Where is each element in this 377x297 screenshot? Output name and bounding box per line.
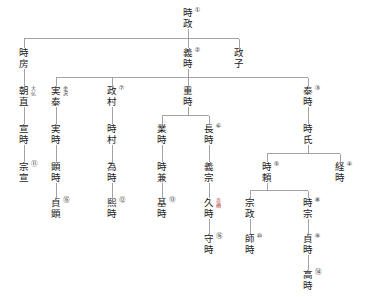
person-name-char: 政 (183, 19, 193, 30)
person-name-char: 時 (107, 173, 117, 184)
person-name-char: 子 (234, 59, 244, 70)
person-node-nagatoki: 長時⑥ (204, 124, 215, 146)
person-name-char: 宣 (19, 173, 29, 184)
branch-family-label: 赤橋 (216, 198, 221, 208)
succession-number: ③ (315, 85, 321, 92)
person-node-sanetoki: 実時 (51, 124, 62, 146)
person-node-tokifusa: 時房 (19, 48, 30, 70)
person-name-char: 直 (19, 97, 29, 108)
person-name-char: 政 (245, 209, 255, 220)
person-node-yoshimune: 義宗 (204, 162, 215, 184)
person-name-char: 氏 (303, 135, 313, 146)
person-name-char: 時 (204, 209, 214, 220)
person-name-char: 兼 (157, 173, 167, 184)
succession-number: ① (195, 7, 201, 14)
person-name-char: 顕 (51, 209, 61, 220)
person-node-tametoki: 為時 (107, 162, 118, 184)
person-name-char: 泰 (51, 97, 61, 108)
person-node-masamura: 政村⑦ (107, 86, 118, 108)
person-name-char: 時 (51, 135, 61, 146)
person-name-char: 村 (107, 135, 117, 146)
person-node-tomonao: 朝直大仏 (19, 86, 30, 108)
person-node-munemasa: 宗政 (245, 198, 256, 220)
succession-number: ⑩ (257, 233, 263, 240)
person-name-char: 村 (107, 97, 117, 108)
genealogy-chart: 時政①時房義時②政子朝直大仏実泰金沢政村⑦重時泰時③宣時実時時村業時長時⑥時氏宗… (0, 0, 377, 297)
person-node-narutoki: 業時 (157, 124, 168, 146)
branch-family-label: 大仏 (31, 86, 36, 96)
person-node-sadaaki: 貞顕⑮ (51, 198, 62, 220)
person-name-char: 時 (157, 209, 167, 220)
succession-number: ⑥ (216, 123, 222, 130)
person-name-char: 時 (204, 245, 214, 256)
person-node-tokiuji: 時氏 (303, 124, 314, 146)
succession-number: ⑧ (315, 197, 321, 204)
person-node-nobutoki: 宣時 (19, 124, 30, 146)
person-name-char: 宗 (204, 173, 214, 184)
succession-number: ⑨ (315, 233, 321, 240)
person-node-tokimune: 時宗⑧ (303, 198, 314, 220)
succession-number: ⑪ (31, 161, 38, 168)
person-name-char: 時 (183, 97, 193, 108)
succession-number: ⑭ (315, 269, 322, 276)
person-node-sadatoki: 貞時⑨ (303, 234, 314, 256)
person-name-char: 時 (245, 245, 255, 256)
person-name-char: 時 (107, 209, 117, 220)
person-name-char: 時 (335, 173, 345, 184)
branch-family-label: 金沢 (63, 86, 68, 96)
person-node-moritoki: 守時⑯ (204, 234, 215, 256)
person-name-char: 時 (183, 59, 193, 70)
person-node-tsunetoki: 経時④ (335, 162, 346, 184)
person-node-tokiyori: 時頼⑤ (262, 162, 273, 184)
succession-number: ⑦ (119, 85, 125, 92)
person-node-munenobu: 宗宣⑪ (19, 162, 30, 184)
person-name-char: 房 (19, 59, 29, 70)
person-name-char: 頼 (262, 173, 272, 184)
person-name-char: 時 (157, 135, 167, 146)
person-node-yasutoki: 泰時③ (303, 86, 314, 108)
person-name-char: 時 (51, 173, 61, 184)
succession-number: ⑫ (119, 197, 126, 204)
person-node-morotoki: 師時⑩ (245, 234, 256, 256)
succession-number: ② (195, 47, 201, 54)
person-node-takatoki: 高時⑭ (303, 270, 314, 292)
person-node-mototoki: 基時⑬ (157, 198, 168, 220)
person-node-akitoki: 顕時 (51, 162, 62, 184)
person-node-hisatoki: 久時赤橋 (204, 198, 215, 220)
succession-number: ④ (347, 161, 353, 168)
person-node-shigetoki: 重時 (183, 86, 194, 108)
person-name-char: 時 (303, 97, 313, 108)
succession-number: ⑤ (274, 161, 280, 168)
connector-lines (0, 0, 377, 297)
person-node-yoshitoki: 義時② (183, 48, 194, 70)
person-node-tokikane: 時兼 (157, 162, 168, 184)
person-name-char: 宗 (303, 209, 313, 220)
succession-number: ⑮ (63, 197, 70, 204)
person-node-tokimura: 時村 (107, 124, 118, 146)
person-node-tokimasa: 時政① (183, 8, 194, 30)
person-name-char: 時 (303, 281, 313, 292)
succession-number: ⑯ (216, 233, 223, 240)
person-node-hirotoki: 熙時⑫ (107, 198, 118, 220)
person-node-masako: 政子 (234, 48, 245, 70)
person-node-sanetai: 実泰金沢 (51, 86, 62, 108)
person-name-char: 時 (19, 135, 29, 146)
succession-number: ⑬ (169, 197, 176, 204)
person-name-char: 時 (204, 135, 214, 146)
person-name-char: 時 (303, 245, 313, 256)
